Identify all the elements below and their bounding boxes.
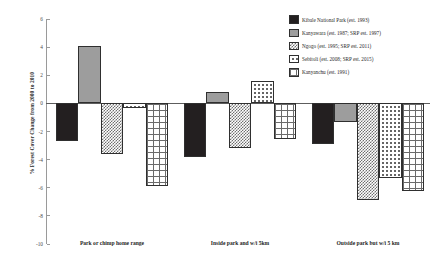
bar xyxy=(206,92,228,103)
legend-swatch xyxy=(289,42,299,51)
legend-swatch xyxy=(289,15,299,24)
legend-item: Kanyawara (est. 1987; SRP est. 1997) xyxy=(289,26,432,39)
legend-label: Kibale National Park (est. 1993) xyxy=(302,16,369,24)
y-axis-title: % Forest Cover Change from 2000 to 2010 xyxy=(29,38,35,208)
bar xyxy=(184,103,206,156)
y-axis-tick-label: -8 xyxy=(39,212,43,220)
bar xyxy=(56,103,78,141)
bar xyxy=(101,103,123,154)
legend-label: Ngogo (est. 1995; SRP est. 2011) xyxy=(302,42,371,50)
y-axis-tick-label: 0 xyxy=(40,99,43,107)
bar xyxy=(402,103,424,190)
legend: Kibale National Park (est. 1993)Kanyawar… xyxy=(289,13,432,79)
y-axis-tick-label: -6 xyxy=(39,184,43,192)
y-axis-tick-label: 2 xyxy=(40,71,43,79)
bar xyxy=(123,103,145,107)
bar xyxy=(251,81,273,104)
forest-cover-change-bar-chart: % Forest Cover Change from 2000 to 2010 … xyxy=(0,0,436,258)
legend-label: Kanyawara (est. 1987; SRP est. 1997) xyxy=(302,29,381,37)
y-axis-tick-label: 4 xyxy=(40,43,43,51)
legend-item: Sebitoli (est. 2008; SRP est. 2015) xyxy=(289,53,432,66)
bar xyxy=(229,103,251,148)
bar xyxy=(78,46,100,104)
y-axis-tick-label: 6 xyxy=(40,15,43,23)
legend-item: Ngogo (est. 1995; SRP est. 2011) xyxy=(289,39,432,52)
legend-label: Sebitoli (est. 2008; SRP est. 2015) xyxy=(302,55,373,63)
bar xyxy=(334,103,356,121)
legend-item: Kanyanchu (est. 1991) xyxy=(289,66,432,79)
bar xyxy=(146,103,168,186)
legend-swatch xyxy=(289,29,299,38)
legend-swatch xyxy=(289,68,299,77)
bar xyxy=(357,103,379,200)
bar xyxy=(312,103,334,144)
bar xyxy=(379,103,401,178)
bar xyxy=(274,103,296,138)
y-axis-tick-label: -2 xyxy=(39,128,43,136)
legend-swatch xyxy=(289,55,299,64)
x-axis-category-label: Outside park but w/i 5 km xyxy=(292,240,436,246)
y-axis-tick-label: -4 xyxy=(39,156,43,164)
legend-label: Kanyanchu (est. 1991) xyxy=(302,68,349,76)
legend-item: Kibale National Park (est. 1993) xyxy=(289,13,432,26)
